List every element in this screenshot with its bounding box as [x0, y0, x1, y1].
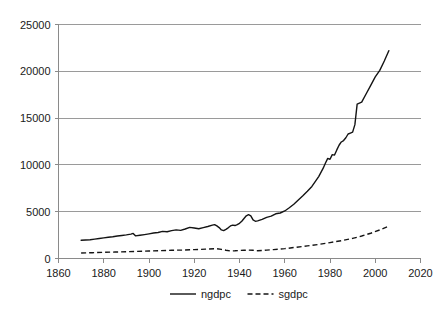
x-tick-label: 1940 [227, 267, 251, 279]
chart-container: 0500010000150002000025000 18601880190019… [0, 0, 448, 313]
data-series [81, 51, 389, 253]
x-tick-label: 1900 [137, 267, 161, 279]
y-tick-label: 5000 [26, 206, 50, 218]
y-tick-label: 20000 [20, 65, 51, 77]
x-tick-label: 1960 [273, 267, 297, 279]
x-tick-label: 2000 [363, 267, 387, 279]
chart-legend: ngdpcsgdpc [170, 288, 308, 300]
y-tick-label: 15000 [20, 112, 51, 124]
y-tick-label: 10000 [20, 159, 51, 171]
series-line-sgdpc [81, 226, 389, 253]
x-axis-ticks: 186018801900192019401960198020002020 [46, 259, 432, 279]
x-tick-label: 1860 [46, 267, 70, 279]
y-tick-label: 0 [44, 253, 50, 265]
legend-label-ngdpc: ngdpc [201, 288, 231, 300]
y-axis-ticks: 0500010000150002000025000 [20, 19, 59, 265]
x-tick-label: 1880 [92, 267, 116, 279]
y-tick-label: 25000 [20, 19, 51, 31]
x-tick-label: 2020 [408, 267, 432, 279]
legend-label-sgdpc: sgdpc [279, 288, 309, 300]
x-tick-label: 1980 [318, 267, 342, 279]
line-chart: 0500010000150002000025000 18601880190019… [0, 0, 448, 313]
x-tick-label: 1920 [182, 267, 206, 279]
